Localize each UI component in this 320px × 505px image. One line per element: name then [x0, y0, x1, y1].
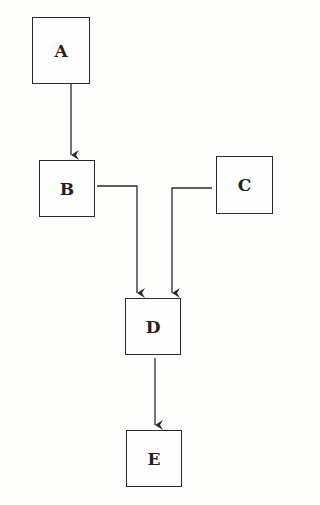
node-b-label: B [60, 179, 74, 199]
node-e: E [126, 430, 182, 487]
node-a: A [32, 17, 90, 84]
node-a-label: A [54, 41, 67, 61]
edge-b-d [97, 186, 137, 293]
node-e-label: E [148, 449, 161, 469]
node-c: C [216, 156, 273, 214]
node-b: B [39, 160, 95, 217]
node-c-label: C [238, 175, 252, 195]
edge-c-d [172, 188, 212, 293]
node-d-label: D [146, 317, 161, 337]
node-d: D [125, 298, 181, 355]
